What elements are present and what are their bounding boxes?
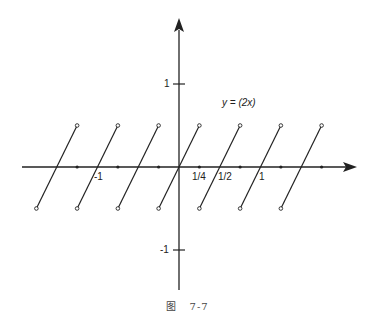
open-endpoint-icon: [35, 207, 39, 211]
caption-prefix: 图: [166, 301, 177, 312]
open-endpoint-icon: [320, 124, 324, 128]
open-endpoint-icon: [116, 124, 120, 128]
x-tick-label-neg1: -1: [94, 172, 103, 182]
open-endpoint-icon: [157, 124, 161, 128]
open-endpoint-icon: [279, 124, 283, 128]
axes: [22, 18, 357, 290]
open-endpoint-icon: [75, 207, 79, 211]
x-axis-dot: [157, 165, 160, 168]
x-axis-dot: [76, 165, 79, 168]
chart-plot: [0, 0, 371, 329]
y-axis-arrow-icon: [174, 18, 184, 32]
x-axis-dot: [279, 165, 282, 168]
x-axis-dot: [198, 165, 201, 168]
x-axis-dot: [320, 165, 323, 168]
caption-number: 7-7: [190, 301, 209, 312]
open-endpoint-icon: [116, 207, 120, 211]
open-endpoint-icon: [75, 124, 79, 128]
x-tick-label-one: 1: [259, 172, 265, 182]
function-label: y = (2x): [222, 98, 256, 108]
x-axis-dot: [239, 165, 242, 168]
x-axis-dot: [116, 165, 119, 168]
open-endpoint-icon: [157, 207, 161, 211]
y-tick-label-neg1: -1: [160, 245, 169, 255]
x-tick-label-half: 1/2: [218, 172, 232, 182]
open-endpoint-icon: [198, 207, 202, 211]
x-tick-label-quarter: 1/4: [192, 172, 206, 182]
open-endpoint-icon: [238, 207, 242, 211]
open-endpoint-icon: [198, 124, 202, 128]
open-endpoint-icon: [279, 207, 283, 211]
open-endpoint-icon: [238, 124, 242, 128]
figure-caption: 图 7-7: [166, 298, 209, 313]
y-tick-label-one: 1: [164, 79, 170, 89]
